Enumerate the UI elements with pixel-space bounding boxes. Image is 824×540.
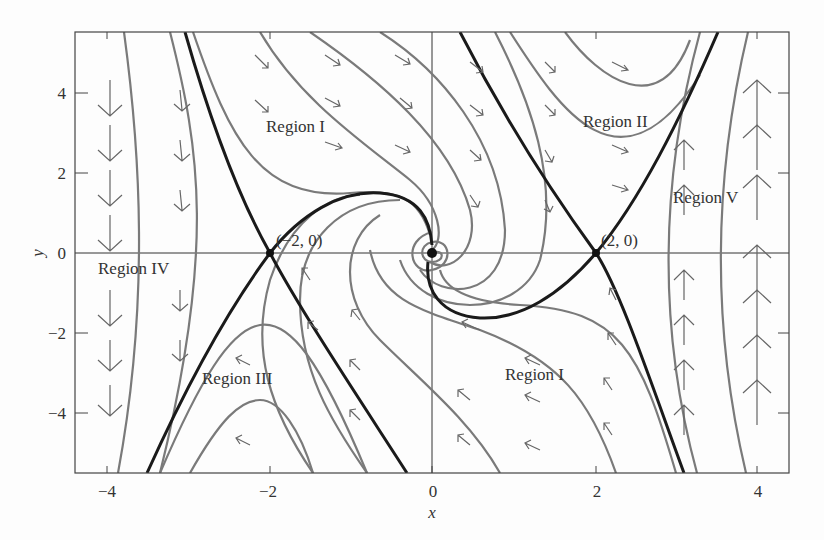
y-tick-labels: 4 2 0 −2 −4 — [48, 84, 67, 423]
region-5-label: Region V — [673, 188, 739, 207]
region-1-bottom-label: Region I — [505, 365, 564, 384]
y-tick-label: 0 — [58, 244, 67, 263]
equilibrium-label-right: (2, 0) — [601, 231, 638, 250]
phase-portrait-chart: −4 −2 0 2 4 4 2 0 −2 −4 x y (−2, 0) (2, … — [0, 0, 824, 540]
equilibrium-label-left: (−2, 0) — [276, 231, 322, 250]
y-axis-label: y — [28, 249, 47, 259]
region-3-label: Region III — [202, 369, 273, 388]
x-tick-label: 4 — [754, 482, 763, 501]
plot-area — [75, 32, 789, 473]
x-axis-label: x — [427, 503, 436, 522]
spiral-sink-origin — [427, 248, 437, 258]
region-1-top-label: Region I — [266, 117, 325, 136]
y-tick-label: −4 — [48, 404, 67, 423]
saddle-point-right — [592, 249, 600, 257]
y-tick-label: 4 — [58, 84, 67, 103]
x-tick-label: 2 — [593, 482, 602, 501]
saddle-point-left — [266, 249, 274, 257]
region-4-label: Region IV — [98, 259, 170, 278]
y-tick-label: −2 — [48, 324, 66, 343]
region-2-label: Region II — [583, 112, 648, 131]
x-tick-labels: −4 −2 0 2 4 — [98, 482, 763, 501]
x-tick-label: 0 — [429, 482, 438, 501]
x-tick-label: −2 — [259, 482, 277, 501]
y-tick-label: 2 — [58, 164, 67, 183]
x-tick-label: −4 — [98, 482, 117, 501]
